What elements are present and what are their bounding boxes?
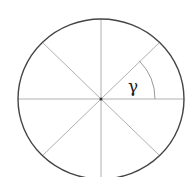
circle-diagram: γ xyxy=(0,0,187,177)
angle-arc xyxy=(139,61,155,99)
angle-label-gamma: γ xyxy=(128,76,138,96)
center-point xyxy=(100,98,103,101)
